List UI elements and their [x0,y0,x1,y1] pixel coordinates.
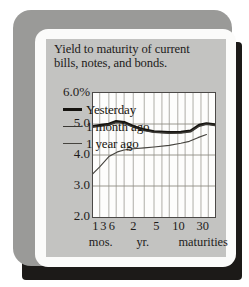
chart-panel: Yield to maturity of current bills, note… [46,39,226,257]
x-axis-tick-label: 5 [153,219,159,234]
x-axis-tick-label: 10 [172,219,184,234]
chart-title: Yield to maturity of current bills, note… [54,42,222,70]
legend-line-swatch [63,105,82,115]
x-axis-tick-label: 3 [100,219,106,234]
chart-title-line-2: bills, notes, and bonds. [54,56,222,70]
legend-line-swatch [63,139,82,149]
x-axis-tick-label: 1 [92,219,98,234]
chart-legend: Yesterday1 month ago1 year ago [63,101,167,152]
legend-line-swatch [63,122,82,132]
legend-label: Yesterday [86,102,136,118]
legend-label: 1 year ago [86,136,139,152]
x-axis-unit-label: mos. [89,235,113,250]
x-axis-tick-labels: 136251030 [92,219,216,235]
outer-frame: Yield to maturity of current bills, note… [13,10,232,266]
y-axis-label: 2.0 [48,208,90,224]
x-axis-tick-label: 30 [197,219,209,234]
x-axis-unit-labels: mos.yr.maturities [86,235,226,251]
legend-item: 1 month ago [63,118,167,135]
chart-title-line-1: Yield to maturity of current [54,42,222,56]
x-axis-tick-label: 2 [130,219,136,234]
legend-item: 1 year ago [63,135,167,152]
x-axis-tick-label: 6 [109,219,115,234]
x-axis-unit-label: yr. [136,235,149,250]
legend-label: 1 month ago [86,119,149,135]
y-axis-label: 3.0 [48,177,90,193]
y-axis-label: 6.0% [48,84,90,100]
legend-item: Yesterday [63,101,167,118]
x-axis-unit-label: maturities [178,235,228,250]
